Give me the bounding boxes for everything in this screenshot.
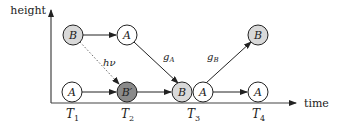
tick-t3: T3 (187, 107, 200, 123)
node-upper-b: B (63, 25, 83, 45)
tick-labels: T1 T2 T3 T4 (66, 107, 265, 123)
svg-text:B: B (253, 29, 262, 42)
tick-t4: T4 (252, 107, 265, 123)
svg-text:B: B (68, 29, 77, 42)
node-upper-b-right: B (248, 25, 268, 45)
node-lower-a4: A (248, 82, 268, 102)
node-lower-b: B (172, 82, 192, 102)
node-lower-bprime: B′ (117, 82, 137, 102)
tick-t2: T2 (121, 107, 134, 123)
svg-text:B: B (177, 86, 186, 99)
node-upper-a: A (117, 25, 137, 45)
node-lower-a3: A (193, 82, 213, 102)
svg-text:A: A (253, 86, 262, 99)
energy-transfer-diagram: height time T1 T2 T3 T4 hν gA gB B A B A (0, 0, 341, 126)
photon-label: hν (103, 57, 116, 68)
svg-text:B′: B′ (121, 86, 133, 99)
y-axis-label: height (10, 4, 46, 17)
x-axis-label: time (304, 97, 329, 110)
tick-t1: T1 (66, 107, 79, 123)
node-lower-a1: A (62, 82, 82, 102)
ga-label: gA (163, 51, 174, 64)
svg-text:A: A (198, 86, 207, 99)
svg-text:A: A (67, 86, 76, 99)
svg-text:A: A (122, 29, 131, 42)
gb-label: gB (207, 51, 219, 64)
